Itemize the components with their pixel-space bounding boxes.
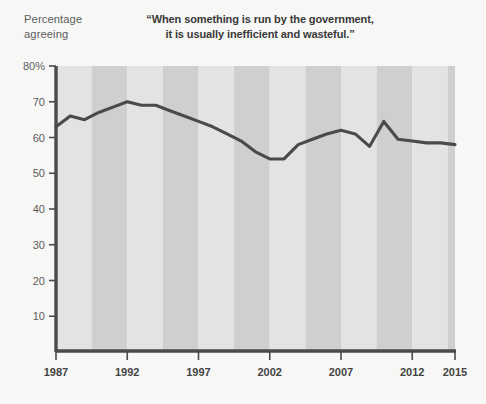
y-tick-label: 80% <box>23 60 45 72</box>
x-tick-label: 1992 <box>115 366 139 378</box>
x-tick-label: 1987 <box>44 366 68 378</box>
x-tick-label: 2007 <box>329 366 353 378</box>
y-tick-label: 40 <box>33 203 45 215</box>
y-tick-label: 50 <box>33 167 45 179</box>
band-stripe <box>305 66 341 352</box>
band-stripe <box>199 66 235 352</box>
band-stripe <box>127 66 163 352</box>
chart-figure: Percentage agreeing “When something is r… <box>0 0 486 404</box>
y-tick-label: 70 <box>33 96 45 108</box>
vertical-band-shading <box>56 66 455 352</box>
band-stripe <box>412 66 448 352</box>
x-tick-label: 1997 <box>186 366 210 378</box>
band-stripe <box>377 66 413 352</box>
x-tick-label: 2002 <box>258 366 282 378</box>
y-tick-label: 30 <box>33 239 45 251</box>
y-axis-ticks: 80%70605040302010 <box>23 60 56 322</box>
x-axis-ticks: 1987199219972002200720122015 <box>44 352 467 378</box>
band-stripe <box>448 66 455 352</box>
band-stripe <box>270 66 306 352</box>
x-tick-label: 2012 <box>400 366 424 378</box>
y-tick-label: 10 <box>33 310 45 322</box>
band-stripe <box>234 66 270 352</box>
y-tick-label: 60 <box>33 132 45 144</box>
band-stripe <box>56 66 92 352</box>
line-chart-plot: 80%70605040302010 1987199219972002200720… <box>0 0 486 404</box>
x-tick-label: 2015 <box>443 366 467 378</box>
band-stripe <box>341 66 377 352</box>
y-tick-label: 20 <box>33 275 45 287</box>
